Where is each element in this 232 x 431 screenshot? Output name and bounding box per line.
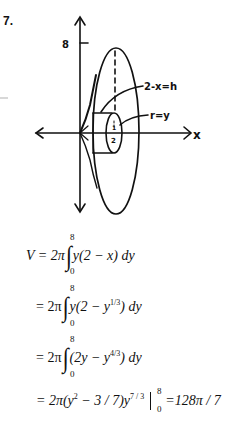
eq1-lhs: V = 2π bbox=[26, 248, 65, 263]
eq4-eval-lower: 0 bbox=[157, 404, 162, 414]
eq4-lhs-mid: − 3 / 7)y bbox=[78, 393, 130, 408]
equation-line-4: = 2π(y2 − 3 / 7)y7 / 3=128π / 7 bbox=[36, 392, 221, 410]
eq4-exponent-2: 7 / 3 bbox=[130, 392, 144, 401]
eq2-integrand-post: ) dy bbox=[120, 299, 141, 314]
eq1-lower-limit: 0 bbox=[70, 266, 75, 276]
cylinder-label-top: 1 bbox=[112, 124, 116, 131]
eq2-exponent: 1/3 bbox=[110, 298, 120, 307]
equation-line-1: V = 2π∫y(2 − x) dy bbox=[26, 243, 135, 269]
eq2-lhs: = 2π bbox=[36, 299, 61, 314]
integral-sign-icon: ∫ bbox=[62, 291, 68, 324]
eq1-integrand: y(2 − x) dy bbox=[73, 248, 135, 263]
eq2-lower-limit: 0 bbox=[70, 318, 75, 328]
eq3-integrand-pre: (2y − y bbox=[70, 350, 111, 365]
integral-sign-icon: ∫ bbox=[62, 342, 68, 375]
equation-line-2: = 2π∫y(2 − y1/3) dy bbox=[36, 294, 142, 320]
eq4-eval-upper: 8 bbox=[157, 386, 162, 396]
eq4-lhs-pre: = 2π(y bbox=[36, 393, 74, 408]
eq2-upper-limit: 8 bbox=[70, 283, 75, 293]
shell-height-label: 2-x=h bbox=[144, 81, 177, 92]
eq3-integrand-post: ) dy bbox=[120, 350, 141, 365]
equation-line-3: = 2π∫(2y − y4/3) dy bbox=[36, 345, 142, 371]
radius-leader-line bbox=[120, 115, 148, 125]
eq4-result: =128π / 7 bbox=[165, 393, 220, 408]
eq3-lhs: = 2π bbox=[36, 350, 61, 365]
y-tick-label: 8 bbox=[62, 39, 69, 50]
eq2-integrand-pre: y(2 − y bbox=[70, 299, 111, 314]
eq3-exponent: 4/3 bbox=[110, 349, 120, 358]
eq3-upper-limit: 8 bbox=[70, 334, 75, 344]
cylinder-label-bottom: 2 bbox=[111, 137, 116, 145]
solid-outline bbox=[93, 48, 139, 214]
evaluation-bar bbox=[150, 392, 151, 410]
eq1-upper-limit: 8 bbox=[70, 232, 75, 242]
eq3-lower-limit: 0 bbox=[70, 369, 75, 379]
x-axis-label: x bbox=[193, 128, 201, 142]
shell-method-diagram: 8 x 2-x=h r=y 1 2 bbox=[0, 0, 232, 225]
radius-label: r=y bbox=[150, 110, 170, 121]
